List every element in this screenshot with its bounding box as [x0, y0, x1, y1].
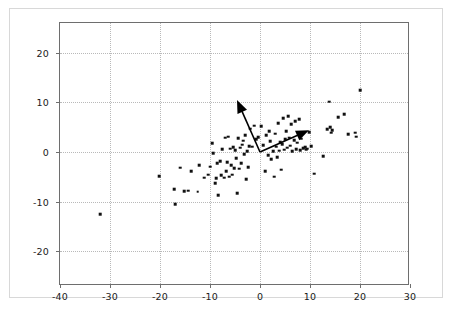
vector-arrowhead: [295, 130, 309, 140]
y-tick-label: 20: [37, 47, 50, 58]
x-tick-label: -40: [52, 291, 68, 302]
vector-arrowhead: [237, 100, 247, 114]
x-tick-label: 10: [304, 291, 317, 302]
y-tick-label: 0: [43, 147, 49, 158]
y-tick-label: -10: [33, 196, 49, 207]
vector-shaft: [241, 109, 260, 152]
x-tick-label: 30: [404, 291, 417, 302]
vectors-group: [237, 100, 309, 152]
y-tick-label: 10: [37, 97, 50, 108]
x-tick-label: -10: [202, 291, 218, 302]
y-tick-label: -20: [33, 246, 49, 257]
figure-canvas: -40-30-20-100102030-20-1001020: [0, 0, 453, 316]
scatter-plot-axes: -40-30-20-100102030-20-1001020: [59, 22, 409, 285]
principal-component-vectors: [60, 23, 410, 286]
x-tick-mark: [410, 284, 411, 288]
vector-shaft: [260, 134, 300, 152]
x-tick-label: -30: [102, 291, 118, 302]
x-tick-label: 0: [257, 291, 263, 302]
x-tick-label: -20: [152, 291, 168, 302]
x-tick-label: 20: [354, 291, 367, 302]
